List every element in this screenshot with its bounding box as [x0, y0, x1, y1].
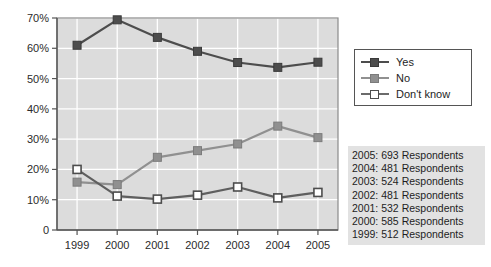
y-tick-label: 40%: [27, 103, 49, 115]
data-point-no: [73, 178, 81, 186]
y-tick-label: 60%: [27, 42, 49, 54]
data-point-don-t-know: [194, 191, 202, 199]
y-tick-label: 50%: [27, 73, 49, 85]
data-point-don-t-know: [73, 165, 81, 173]
legend-marker-dont-know: [361, 87, 389, 101]
y-tick-label: 10%: [27, 194, 49, 206]
data-point-yes: [234, 59, 242, 67]
respondents-line: 1999: 512 Respondents: [352, 228, 481, 241]
x-tick-label: 2001: [145, 239, 169, 251]
data-point-no: [153, 153, 161, 161]
legend-item-no: No: [361, 70, 471, 86]
data-point-yes: [194, 47, 202, 55]
legend-label-dont-know: Don't know: [396, 87, 450, 101]
data-point-don-t-know: [234, 183, 242, 191]
y-tick-label: 30%: [27, 133, 49, 145]
legend-label-yes: Yes: [396, 55, 414, 69]
respondents-line: 2003: 524 Respondents: [352, 175, 481, 188]
data-point-no: [234, 140, 242, 148]
data-point-don-t-know: [113, 192, 121, 200]
data-point-yes: [314, 58, 322, 66]
chart-legend: Yes No Don't know: [354, 49, 472, 106]
respondents-line: 2002: 481 Respondents: [352, 189, 481, 202]
respondents-line: 2005: 693 Respondents: [352, 149, 481, 162]
data-point-no: [314, 134, 322, 142]
x-tick-label: 2003: [225, 239, 249, 251]
data-point-no: [113, 181, 121, 189]
data-point-yes: [274, 63, 282, 71]
x-tick-label: 1999: [65, 239, 89, 251]
data-point-no: [274, 122, 282, 130]
data-point-yes: [113, 16, 121, 24]
respondents-line: 2000: 585 Respondents: [352, 215, 481, 228]
data-point-don-t-know: [314, 188, 322, 196]
legend-marker-yes: [361, 55, 389, 69]
data-point-yes: [73, 41, 81, 49]
line-chart: 010%20%30%40%50%60%70%199920002001200220…: [0, 0, 345, 267]
respondents-line: 2004: 481 Respondents: [352, 162, 481, 175]
x-tick-label: 2002: [185, 239, 209, 251]
x-tick-label: 2004: [266, 239, 290, 251]
legend-item-yes: Yes: [361, 54, 471, 70]
x-tick-label: 2000: [105, 239, 129, 251]
legend-marker-no: [361, 71, 389, 85]
data-point-don-t-know: [153, 195, 161, 203]
legend-label-no: No: [396, 71, 410, 85]
data-point-yes: [153, 33, 161, 41]
data-point-don-t-know: [274, 194, 282, 202]
y-tick-label: 20%: [27, 163, 49, 175]
respondents-line: 2001: 532 Respondents: [352, 202, 481, 215]
y-tick-label: 0: [43, 224, 49, 236]
respondents-note: 2005: 693 Respondents 2004: 481 Responde…: [348, 146, 485, 245]
x-tick-label: 2005: [306, 239, 330, 251]
legend-item-dont-know: Don't know: [361, 86, 471, 102]
chart-canvas: 010%20%30%40%50%60%70%199920002001200220…: [0, 0, 345, 267]
data-point-no: [194, 147, 202, 155]
y-tick-label: 70%: [27, 12, 49, 24]
